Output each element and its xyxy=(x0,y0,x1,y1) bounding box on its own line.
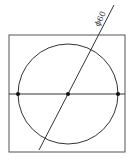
dimension-label: ϕ60 xyxy=(93,10,108,28)
diameter-diagram: ϕ60 xyxy=(0,0,136,164)
point-left xyxy=(16,92,20,96)
diagonal-dimension-line xyxy=(39,5,114,150)
point-center xyxy=(66,92,70,96)
point-right xyxy=(116,92,120,96)
